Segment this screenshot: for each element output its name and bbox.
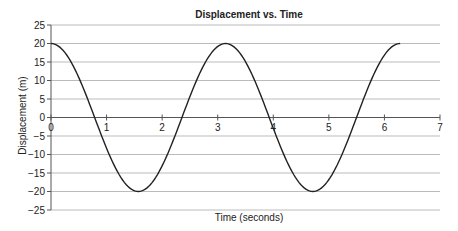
y-tick-label: −20: [28, 186, 45, 197]
y-tick-label: −5: [34, 131, 46, 142]
x-tick-label: 6: [382, 122, 388, 133]
y-tick-label: 10: [34, 75, 46, 86]
x-tick-label: 5: [326, 122, 332, 133]
x-tick-label: 1: [104, 122, 110, 133]
x-tick-label: 7: [437, 122, 443, 133]
x-tick-label: 3: [215, 122, 221, 133]
y-tick-label: 0: [39, 112, 45, 123]
x-tick-label: 0: [48, 122, 54, 133]
y-tick-label: −10: [28, 149, 45, 160]
y-tick-label: 15: [34, 57, 46, 68]
y-tick-label: 20: [34, 38, 46, 49]
x-tick-label: 2: [159, 122, 165, 133]
y-tick-label: −25: [28, 205, 45, 216]
y-tick-label: 25: [34, 20, 46, 31]
plot-area: 2520151050−5−10−15−20−2501234567: [0, 0, 458, 231]
y-tick-label: −15: [28, 168, 45, 179]
y-tick-label: 5: [39, 94, 45, 105]
